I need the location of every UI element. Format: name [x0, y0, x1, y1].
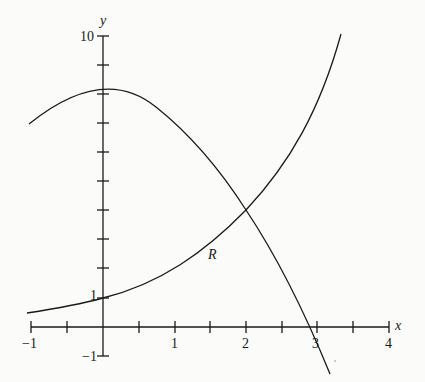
- y-axis-label: y: [100, 14, 106, 28]
- x-tick-label-2: 2: [242, 337, 249, 351]
- x-axis-label: x: [395, 319, 401, 333]
- y-tick-label-neg1: −1: [82, 350, 97, 364]
- x-tick-label-3: 3: [312, 337, 319, 351]
- y-tick-label-1: 1: [90, 289, 97, 303]
- region-label: R: [208, 248, 217, 262]
- x-tick-label-neg1: −1: [22, 337, 37, 351]
- y-tick-label-10: 10: [80, 30, 94, 44]
- exponential-curve: [27, 34, 341, 313]
- graph-figure: y x R 10 1 −1 −1 1 2 3 4: [0, 0, 425, 382]
- stray-dot: [334, 360, 336, 362]
- parabola-curve: [29, 89, 330, 374]
- x-tick-label-4: 4: [385, 337, 392, 351]
- graph-canvas: [0, 0, 425, 382]
- x-tick-label-1: 1: [171, 337, 178, 351]
